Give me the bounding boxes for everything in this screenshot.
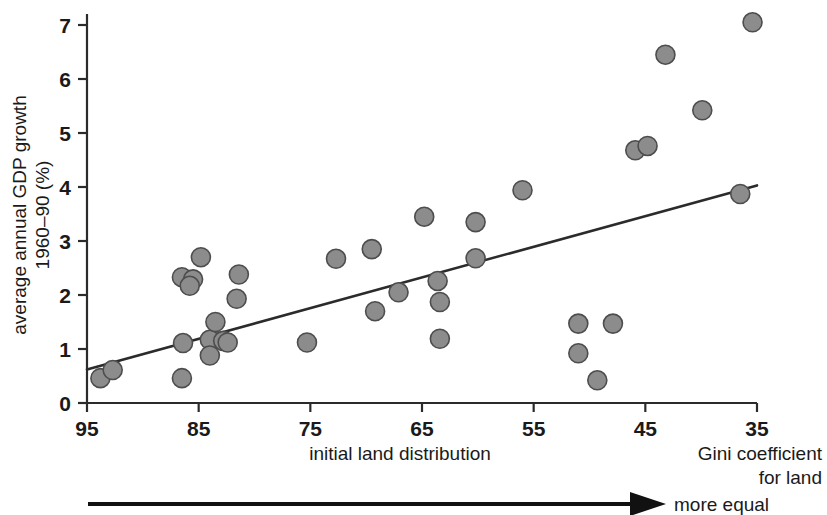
gini-corner-label: Gini coefficient for land bbox=[698, 443, 823, 488]
y-tick-label: 4 bbox=[59, 176, 71, 199]
data-point bbox=[389, 283, 408, 302]
x-axis-title: initial land distribution bbox=[309, 443, 491, 464]
x-axis-ticks: 95857565554535 bbox=[75, 403, 769, 440]
data-point bbox=[415, 207, 434, 226]
y-axis-label: average annual GDP growth 1960–90 (%) bbox=[9, 95, 53, 334]
data-point bbox=[428, 271, 447, 290]
y-tick-label: 6 bbox=[59, 68, 71, 91]
data-point bbox=[218, 333, 237, 352]
data-point bbox=[206, 313, 225, 332]
data-point bbox=[638, 136, 657, 155]
y-axis-label-line1: average annual GDP growth bbox=[9, 95, 30, 334]
data-point bbox=[227, 289, 246, 308]
data-point bbox=[366, 302, 385, 321]
data-point bbox=[731, 185, 750, 204]
x-tick-label: 75 bbox=[299, 417, 323, 440]
data-point bbox=[229, 265, 248, 284]
y-tick-label: 0 bbox=[59, 392, 71, 415]
data-point bbox=[103, 361, 122, 380]
data-point bbox=[430, 329, 449, 348]
data-point bbox=[656, 45, 675, 64]
data-point bbox=[693, 101, 712, 120]
chart-svg: average annual GDP growth 1960–90 (%) 01… bbox=[0, 0, 827, 515]
data-point bbox=[569, 344, 588, 363]
data-point bbox=[180, 276, 199, 295]
data-point bbox=[174, 334, 193, 353]
data-point bbox=[743, 13, 762, 32]
x-tick-label: 55 bbox=[522, 417, 546, 440]
y-tick-label: 7 bbox=[59, 14, 71, 37]
data-point bbox=[327, 249, 346, 268]
data-point bbox=[569, 314, 588, 333]
data-point bbox=[191, 248, 210, 267]
arrow-head-icon bbox=[630, 492, 666, 515]
x-tick-label: 45 bbox=[634, 417, 658, 440]
data-point-group bbox=[91, 13, 762, 390]
data-point bbox=[603, 314, 622, 333]
y-tick-label: 2 bbox=[59, 284, 71, 307]
data-point bbox=[200, 346, 219, 365]
scatter-chart-figure: average annual GDP growth 1960–90 (%) 01… bbox=[0, 0, 827, 515]
data-point bbox=[588, 371, 607, 390]
data-point bbox=[297, 333, 316, 352]
y-tick-label: 3 bbox=[59, 230, 71, 253]
x-tick-label: 35 bbox=[745, 417, 769, 440]
x-tick-label: 65 bbox=[410, 417, 434, 440]
y-axis-label-line2: 1960–90 (%) bbox=[32, 161, 53, 270]
gini-label-line2: for land bbox=[759, 467, 822, 488]
y-axis-ticks: 01234567 bbox=[59, 14, 87, 415]
data-point bbox=[466, 213, 485, 232]
data-point bbox=[466, 249, 485, 268]
y-tick-label: 1 bbox=[59, 338, 71, 361]
data-point bbox=[172, 369, 191, 388]
y-tick-label: 5 bbox=[59, 122, 71, 145]
arrow-label-text: more equal bbox=[674, 494, 769, 515]
data-point bbox=[513, 181, 532, 200]
more-equal-arrow: more equal bbox=[88, 492, 769, 515]
x-tick-label: 85 bbox=[187, 417, 211, 440]
x-tick-label: 95 bbox=[75, 417, 99, 440]
data-point bbox=[430, 293, 449, 312]
data-point bbox=[362, 240, 381, 259]
gini-label-line1: Gini coefficient bbox=[698, 443, 823, 464]
